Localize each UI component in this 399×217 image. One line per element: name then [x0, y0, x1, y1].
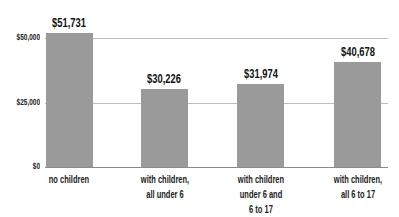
bar-children-all-under-6	[141, 89, 188, 167]
x-label-line: with children,	[131, 172, 199, 187]
value-label: $31,974	[232, 66, 290, 81]
x-label-children-all-6-to-17: with children, all 6 to 17	[324, 172, 392, 202]
x-label-children-all-under-6: with children, all under 6	[131, 172, 199, 202]
gridline-50000	[45, 38, 388, 39]
x-label-line: with children,	[324, 172, 392, 187]
x-label-line: 6 to 17	[227, 202, 295, 217]
x-label-line: with children	[227, 172, 295, 187]
value-label: $40,678	[329, 44, 387, 59]
y-tick-0: $0	[11, 161, 40, 171]
x-axis-baseline	[45, 167, 388, 168]
x-label-line: all 6 to 17	[324, 187, 392, 202]
y-tick-25000: $25,000	[11, 97, 40, 107]
y-tick-50000: $50,000	[11, 32, 40, 42]
bar-no-children	[46, 33, 93, 167]
bar-children-under-6-and-6-to-17	[237, 84, 284, 167]
x-label-line: all under 6	[131, 187, 199, 202]
bar-chart: $50,000 $25,000 $0 $51,731 $30,226 $31,9…	[0, 0, 399, 217]
x-label-line: under 6 and	[227, 187, 295, 202]
x-label-line: no children	[35, 172, 103, 187]
bar-children-all-6-to-17	[334, 62, 381, 167]
x-label-children-under-6-and-6-to-17: with children under 6 and 6 to 17	[227, 172, 295, 217]
x-label-no-children: no children	[35, 172, 103, 187]
value-label: $30,226	[135, 71, 193, 86]
value-label: $51,731	[40, 15, 98, 30]
